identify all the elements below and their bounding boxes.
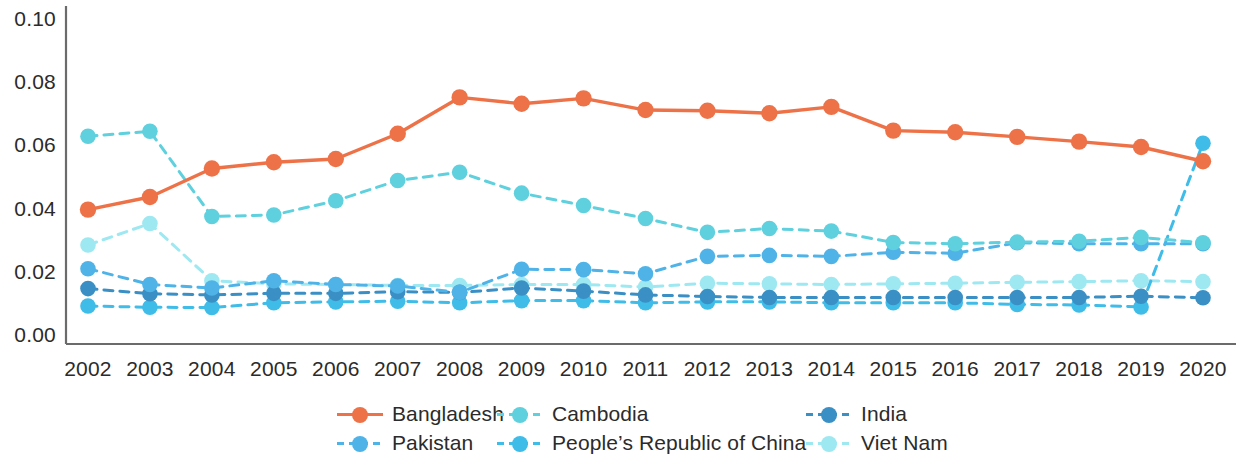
data-point [885, 290, 901, 306]
x-axis-tick-label: 2020 [1168, 357, 1238, 381]
legend-item-india[interactable]: India [806, 400, 907, 428]
data-point [637, 102, 653, 118]
data-point [638, 211, 654, 227]
data-point [762, 276, 778, 292]
data-point [885, 276, 901, 292]
legend-label: India [861, 402, 907, 426]
legend-marker-icon [337, 432, 383, 454]
data-point [204, 209, 220, 225]
data-point [390, 173, 406, 189]
data-point [638, 266, 654, 282]
data-point [947, 124, 963, 140]
data-point [1071, 233, 1087, 249]
x-axis-tick-label: 2019 [1106, 357, 1176, 381]
line-chart-svg [0, 0, 1240, 395]
data-point [266, 207, 282, 223]
legend-marker-icon [497, 403, 543, 425]
data-point [142, 299, 158, 315]
data-point [1195, 135, 1211, 151]
data-point [1133, 288, 1149, 304]
data-point [761, 105, 777, 121]
data-point [700, 225, 716, 241]
x-axis-tick-label: 2014 [796, 357, 866, 381]
data-point [575, 90, 591, 106]
legend-marker-icon [497, 432, 543, 454]
data-point [390, 278, 406, 294]
legend-item-people-s-republic-of-china[interactable]: People’s Republic of China [497, 429, 806, 457]
x-axis-tick-label: 2003 [115, 357, 185, 381]
data-point [576, 262, 592, 278]
legend-dot-icon [352, 436, 368, 452]
data-point [204, 160, 220, 176]
data-point [1133, 230, 1149, 246]
data-point [142, 277, 158, 293]
x-axis-tick-label: 2010 [549, 357, 619, 381]
data-point [885, 235, 901, 251]
data-point [947, 290, 963, 306]
data-point [1009, 274, 1025, 290]
data-point [824, 249, 840, 265]
data-point [762, 221, 778, 237]
legend-dot-icon [352, 407, 368, 423]
data-point [1195, 290, 1211, 306]
data-point [947, 236, 963, 252]
data-point [328, 193, 344, 209]
legend-marker-icon [806, 432, 852, 454]
legend-item-viet-nam[interactable]: Viet Nam [806, 429, 948, 457]
data-point [80, 261, 96, 277]
legend-item-pakistan[interactable]: Pakistan [337, 429, 473, 457]
data-point [1133, 139, 1149, 155]
x-axis-tick-label: 2006 [301, 357, 371, 381]
legend-item-bangladesh[interactable]: Bangladesh [337, 400, 504, 428]
data-point [1009, 129, 1025, 145]
data-point [204, 280, 220, 296]
data-point [1071, 274, 1087, 290]
data-point [824, 290, 840, 306]
data-point [762, 248, 778, 264]
data-point [80, 298, 96, 314]
data-point [1133, 273, 1149, 289]
data-point [1009, 234, 1025, 250]
x-axis-tick-label: 2011 [611, 357, 681, 381]
x-axis-tick-label: 2008 [425, 357, 495, 381]
x-axis-tick-label: 2005 [239, 357, 309, 381]
data-point [699, 102, 715, 118]
data-point [1009, 290, 1025, 306]
legend-item-cambodia[interactable]: Cambodia [497, 400, 649, 428]
x-axis-tick-label: 2002 [53, 357, 123, 381]
data-point [513, 96, 529, 112]
data-point [514, 185, 530, 201]
data-point [452, 285, 468, 301]
chart-root: 0.000.020.040.060.080.10 200220032004200… [0, 0, 1240, 462]
legend-dot-icon [821, 407, 837, 423]
data-point [80, 281, 96, 297]
data-point [576, 198, 592, 214]
series-line [88, 131, 1203, 244]
legend-dot-icon [512, 407, 528, 423]
y-axis-tick-label: 0.04 [0, 197, 56, 221]
data-point [1195, 274, 1211, 290]
data-point [1195, 235, 1211, 251]
legend-marker-icon [337, 403, 383, 425]
y-axis-tick-label: 0.10 [0, 7, 56, 31]
y-axis-tick-label: 0.02 [0, 260, 56, 284]
data-point [947, 275, 963, 291]
data-point [762, 290, 778, 306]
data-point [638, 287, 654, 303]
data-point [823, 99, 839, 115]
data-point [328, 277, 344, 293]
data-point [80, 237, 96, 253]
x-axis-tick-label: 2007 [363, 357, 433, 381]
legend-label: Pakistan [392, 431, 473, 455]
legend-dot-icon [821, 436, 837, 452]
data-point [142, 216, 158, 232]
data-point [266, 273, 282, 289]
y-axis-tick-label: 0.00 [0, 323, 56, 347]
legend-label: Cambodia [552, 402, 649, 426]
data-point [266, 154, 282, 170]
y-axis-tick-label: 0.08 [0, 70, 56, 94]
legend-label: People’s Republic of China [552, 431, 806, 455]
x-axis-tick-label: 2016 [920, 357, 990, 381]
series-bangladesh [80, 89, 1211, 218]
data-point [514, 280, 530, 296]
